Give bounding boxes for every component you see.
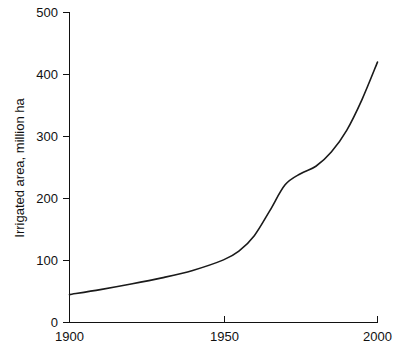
- y-tick-label-500: 500: [36, 5, 58, 20]
- x-tick-label-2000: 2000: [363, 329, 392, 344]
- x-tick-label-1900: 1900: [55, 329, 84, 344]
- chart-background: [0, 0, 406, 357]
- y-tick-label-200: 200: [36, 191, 58, 206]
- y-tick-label-300: 300: [36, 129, 58, 144]
- x-tick-label-1950: 1950: [210, 329, 239, 344]
- chart-figure: 500 400 300 200 100 0 1900 1950 2000 Irr…: [0, 0, 406, 357]
- y-axis-title: Irrigated area, million ha: [12, 98, 27, 238]
- line-chart-canvas: 500 400 300 200 100 0 1900 1950 2000 Irr…: [0, 0, 406, 357]
- y-tick-label-400: 400: [36, 67, 58, 82]
- y-tick-label-0: 0: [51, 315, 58, 330]
- y-tick-label-100: 100: [36, 253, 58, 268]
